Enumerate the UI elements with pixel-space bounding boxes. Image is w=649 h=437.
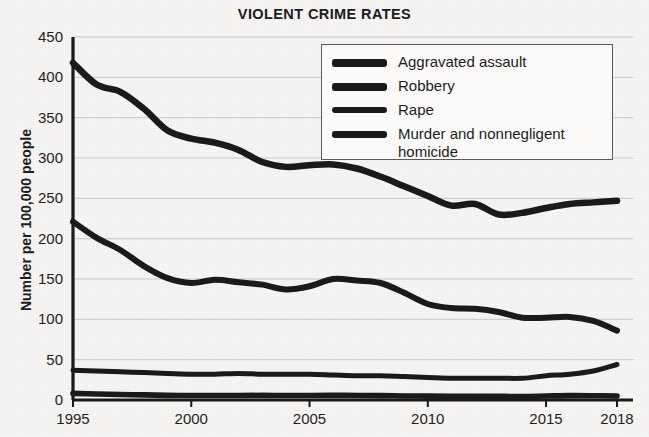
legend-item[interactable]: Rape <box>332 101 434 119</box>
y-tick-label: 350 <box>19 109 63 126</box>
y-tick-label: 50 <box>19 351 63 368</box>
y-tick-label: 200 <box>19 230 63 247</box>
y-tick-label: 400 <box>19 68 63 85</box>
y-tick-label: 150 <box>19 270 63 287</box>
legend-item-label: Robbery <box>398 77 455 95</box>
legend-item-label: Rape <box>398 101 434 119</box>
legend-item-label: Murder and nonnegligent homicide <box>398 125 565 161</box>
y-tick-label: 250 <box>19 189 63 206</box>
legend-item-label: Aggravated assault <box>398 53 526 71</box>
y-tick-label: 100 <box>19 310 63 327</box>
legend-line-swatch-icon <box>332 131 387 138</box>
legend-line-swatch-icon <box>332 59 387 67</box>
series-line <box>73 365 617 379</box>
legend-item[interactable]: Murder and nonnegligent homicide <box>332 125 565 161</box>
legend-item[interactable]: Robbery <box>332 77 455 95</box>
series-line <box>73 222 617 331</box>
legend-line-swatch-icon <box>332 83 387 91</box>
y-tick-label: 450 <box>19 28 63 45</box>
x-tick-label: 2000 <box>175 410 208 427</box>
legend-item[interactable]: Aggravated assault <box>332 53 526 71</box>
x-tick-label: 2010 <box>411 410 444 427</box>
x-tick-label: 2018 <box>600 410 633 427</box>
x-tick-label: 2015 <box>529 410 562 427</box>
chart-figure: VIOLENT CRIME RATES Number per 100,000 p… <box>0 0 649 437</box>
x-tick-label: 1995 <box>56 410 89 427</box>
y-tick-label: 0 <box>19 391 63 408</box>
legend-line-swatch-icon <box>332 107 387 113</box>
y-tick-label: 300 <box>19 149 63 166</box>
series-line <box>73 393 617 396</box>
chart-legend: Aggravated assaultRobberyRapeMurder and … <box>321 44 613 160</box>
x-tick-label: 2005 <box>293 410 326 427</box>
